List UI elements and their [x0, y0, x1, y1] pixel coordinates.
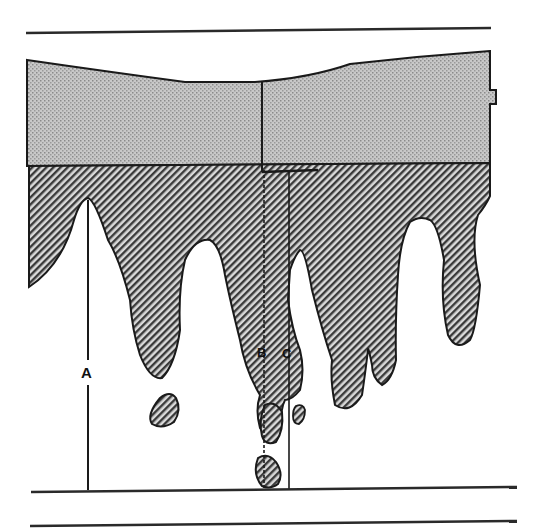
label-a: A	[81, 364, 92, 381]
blob-left	[150, 394, 178, 427]
bottom-rule	[30, 521, 517, 526]
diagram-canvas: A B C	[0, 0, 541, 529]
top-rule	[26, 28, 491, 33]
base-line	[31, 487, 517, 492]
lower-layer	[29, 163, 490, 435]
label-b: B	[257, 345, 266, 360]
label-c: C	[282, 346, 292, 361]
blob-small-right	[293, 405, 305, 424]
blob-center-lower	[256, 456, 281, 488]
